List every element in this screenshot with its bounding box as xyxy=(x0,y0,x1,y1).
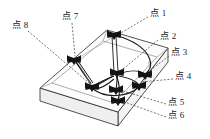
callout-label-point-5: 点 5 xyxy=(168,98,185,107)
callout-label-point-8: 点 8 xyxy=(12,21,29,30)
figure-container: 点 1 点 2 点 3 点 4 点 5 点 6 点 7 点 8 xyxy=(0,0,210,139)
callout-label-point-4: 点 4 xyxy=(175,72,192,81)
callout-label-point-2: 点 2 xyxy=(160,32,177,41)
callout-label-point-7: 点 7 xyxy=(62,12,79,21)
callout-label-point-3: 点 3 xyxy=(171,48,188,57)
plate-body xyxy=(40,30,168,126)
leader-point-7 xyxy=(72,23,75,56)
callout-label-point-6: 点 6 xyxy=(168,111,185,120)
leader-point-1 xyxy=(119,17,148,34)
callout-label-point-1: 点 1 xyxy=(150,9,167,18)
